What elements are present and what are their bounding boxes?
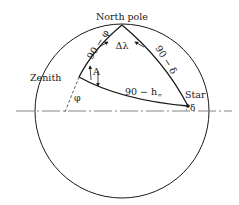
azimuth-arrow-top [90,66,91,80]
zenith-distance-main: 90 − h [125,86,157,97]
zenith-distance-label: 90 − h∞ [125,86,162,98]
colatitude-label: 90 − φ [84,27,111,61]
diagram-canvas: North pole Zenith Star Δλ A φ δ 90 − φ 9… [0,0,239,205]
star-label: Star [185,89,206,100]
declination-label: δ [190,103,195,113]
azimuth-label: A [92,66,100,77]
zenith-distance-sub: ∞ [157,91,162,98]
latitude-label: φ [74,92,81,103]
delta-lambda-label: Δλ [116,40,129,51]
north-pole-label: North pole [96,11,148,22]
zenith-label: Zenith [30,72,61,83]
